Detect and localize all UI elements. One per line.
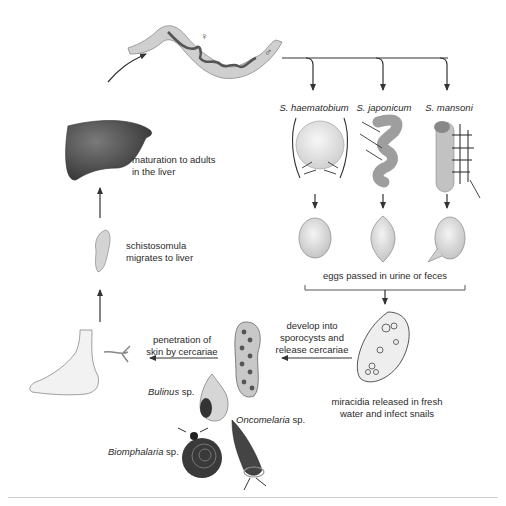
species-label-japonicum: S. japonicum: [348, 102, 420, 114]
sporocyst-illustration: [235, 322, 260, 397]
sporocysts-caption-line2: sporocysts and: [272, 332, 352, 344]
miracidia-caption: miracidia released in fresh water and in…: [322, 396, 452, 420]
sporocysts-caption: develop into sporocysts and release cerc…: [272, 320, 352, 356]
miracidium-illustration: [357, 312, 409, 382]
organ-to-egg-arrows: [315, 194, 447, 208]
liver-caption-line1: maturation to adults: [132, 154, 215, 166]
species-label-haematobium: S. haematobium: [273, 102, 355, 114]
snail-genus-bulinus: Bulinus: [148, 386, 179, 397]
snail-label-oncomelania: Oncomelaria sp.: [236, 414, 305, 426]
penetration-caption-line1: penetration of: [140, 334, 224, 346]
arrow-liver-to-adults: [108, 54, 146, 82]
snail-suffix: sp.: [163, 446, 178, 457]
sporocysts-caption-line1: develop into: [272, 320, 352, 332]
snail-suffix: sp.: [179, 386, 194, 397]
snail-label-bulinus: Bulinus sp.: [148, 386, 194, 398]
foot-illustration: [30, 330, 130, 395]
snail-genus-oncomelania: Oncomelaria: [236, 414, 290, 425]
bulinus-snail: [200, 374, 228, 421]
snail-genus-biomphalaria: Biomphalaria: [108, 446, 163, 457]
liver-caption-line2: in the liver: [132, 166, 215, 178]
adult-worms-illustration: ♀ ♂: [128, 26, 282, 79]
branch-arrows: [282, 58, 448, 90]
intestine-illustration: [360, 120, 397, 182]
species-label-mansoni: S. mansoni: [418, 102, 480, 114]
eggs-bracket: [305, 285, 465, 290]
penetration-caption: penetration of skin by cercariae: [140, 334, 224, 358]
schistosomula-caption: schistosomula migrates to liver: [126, 240, 193, 264]
snail-label-biomphalaria: Biomphalaria sp.: [108, 446, 179, 458]
egg-japonicum: [371, 216, 395, 262]
schistosomula-illustration: [95, 230, 110, 272]
sporocysts-caption-line3: release cercariae: [272, 344, 352, 356]
egg-haematobium: [299, 218, 331, 258]
biomphalaria-snail: [178, 428, 222, 478]
miracidia-caption-line2: water and infect snails: [322, 408, 452, 420]
liver-caption: maturation to adults in the liver: [132, 154, 215, 178]
oncomelania-snail: [232, 420, 266, 490]
eggs-caption: eggs passed in urine or feces: [300, 270, 470, 282]
egg-mansoni: [428, 217, 465, 262]
bottom-divider: [8, 497, 498, 498]
snail-suffix: sp.: [290, 414, 305, 425]
schistosomula-caption-line2: migrates to liver: [126, 252, 193, 264]
colon-illustration: [434, 121, 480, 198]
miracidia-caption-line1: miracidia released in fresh: [322, 396, 452, 408]
life-cycle-diagram: ♀ ♂: [0, 0, 506, 506]
female-symbol: ♀: [200, 30, 208, 42]
bladder-illustration: [293, 118, 348, 178]
schistosomula-caption-line1: schistosomula: [126, 240, 193, 252]
male-symbol: ♂: [264, 46, 272, 58]
penetration-caption-line2: skin by cercariae: [140, 346, 224, 358]
